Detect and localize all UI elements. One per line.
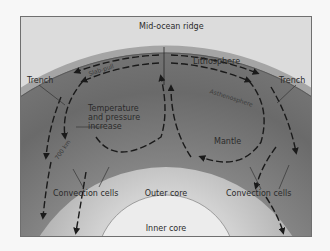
label-trench-left: Trench [27,76,53,85]
label-inner-core: Inner core [136,224,196,233]
earth-cross-section [21,17,311,236]
label-mantle: Mantle [214,137,241,146]
label-mid-ocean-ridge: Mid-ocean ridge [139,22,189,31]
label-trench-right: Trench [279,76,305,85]
label-convection-cells-right: Convection cells [226,189,291,198]
label-temperature-pressure: Temperature and pressure increase [88,104,148,131]
diagram-frame: Mid-ocean ridge Lithosphere Trench Trenc… [20,16,312,237]
label-outer-core: Outer core [136,189,196,198]
label-convection-cells-left: Convection cells [53,189,118,198]
label-lithosphere: Lithosphere [193,57,240,66]
